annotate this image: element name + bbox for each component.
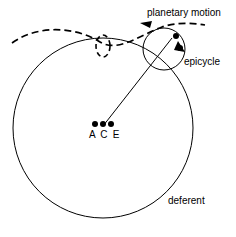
center-point-e: [108, 121, 114, 127]
epicycle-arrowhead-icon: [174, 41, 185, 52]
epicycle-diagram: planetary motion epicycle deferent A C E: [0, 0, 236, 237]
retrograde-arrowhead-icon: [140, 21, 152, 28]
center-point-a: [92, 121, 98, 127]
deferent-circle: [13, 38, 193, 218]
planet-marker-upper: [173, 33, 179, 39]
deferent-label: deferent: [168, 196, 205, 206]
planetary-motion-label: planetary motion: [147, 8, 221, 18]
epicycle-label: epicycle: [184, 57, 220, 67]
center-point-c: [100, 121, 106, 127]
center-points-label: A C E: [89, 130, 121, 140]
radius-line: [103, 38, 172, 126]
